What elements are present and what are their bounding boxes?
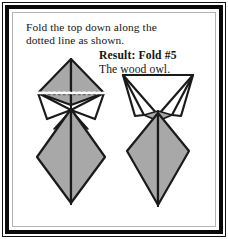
origami-diagram-right xyxy=(117,71,199,209)
instruction-text: Fold the top down along the dotted line … xyxy=(26,21,206,48)
result-title: Result: Fold #5 xyxy=(99,49,214,63)
owl-body-left-face xyxy=(127,113,158,205)
instruction-line-2: dotted line as shown. xyxy=(26,34,206,47)
owl-body-right-face xyxy=(158,113,189,205)
origami-diagram-left xyxy=(30,57,112,207)
figure-wood-owl xyxy=(117,71,199,209)
figure-before-fold xyxy=(30,57,112,207)
instruction-card: Fold the top down along the dotted line … xyxy=(0,0,228,239)
lower-body-right-face xyxy=(71,109,105,203)
instruction-line-1: Fold the top down along the xyxy=(26,21,206,34)
lower-body-left-face xyxy=(37,109,71,203)
card-content: Fold the top down along the dotted line … xyxy=(13,13,215,226)
